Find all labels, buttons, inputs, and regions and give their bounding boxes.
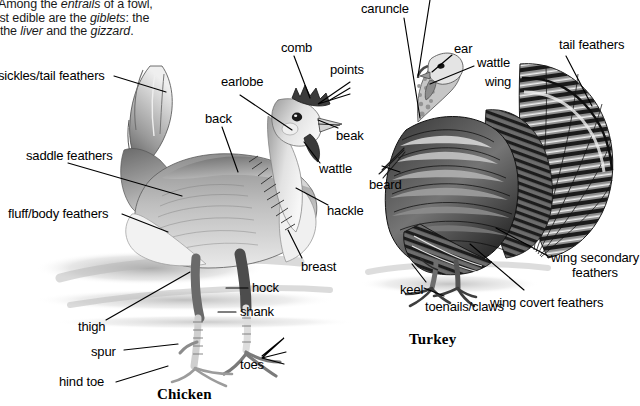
- leader-toes-2: [262, 358, 284, 364]
- caption-chicken: Chicken: [157, 386, 212, 403]
- label-back: back: [205, 112, 232, 126]
- label-caruncle: caruncle: [361, 2, 409, 16]
- leader-earlobe: [240, 95, 292, 130]
- leader-beak: [318, 120, 338, 128]
- label-sickles-tail-feathers: sickles/tail feathers: [0, 69, 105, 83]
- label-saddle-feathers: saddle feathers: [26, 149, 113, 163]
- leader-wing-covert-feathers: [470, 244, 524, 290]
- label-shank: shank: [240, 305, 274, 319]
- leader-tail-feathers: [566, 56, 592, 106]
- leader-sickles-tail-feathers: [114, 76, 166, 92]
- leader-keel: [412, 264, 426, 282]
- label-beard: beard: [369, 178, 402, 192]
- leader-fluff-body-feathers: [122, 214, 168, 232]
- intro-line-2: e most edible are the giblets: the: [0, 11, 149, 25]
- label-spur: spur: [91, 345, 116, 359]
- intro-paragraph: ges. Among the entrails of a fowl, e mos…: [0, 0, 262, 39]
- leader-thigh: [106, 272, 190, 320]
- label-comb: comb: [281, 41, 312, 55]
- label-beak: beak: [336, 129, 364, 143]
- label-hock: hock: [252, 281, 279, 295]
- leader-hind-toe: [116, 366, 168, 382]
- label-fluff-body-feathers: fluff/body feathers: [8, 207, 108, 221]
- intro-line-3: eart, the liver and the gizzard.: [0, 24, 134, 38]
- leader-toes: [262, 338, 286, 358]
- label-wattle: wattle: [319, 162, 352, 176]
- anatomy-diagram: ges. Among the entrails of a fowl, e mos…: [0, 0, 640, 406]
- label-wing-secondary-feathers: wing secondary feathers: [549, 251, 640, 280]
- leader-snood: [418, 0, 430, 76]
- label-wing-covert-feathers: wing covert feathers: [490, 296, 603, 310]
- leader-points: [318, 82, 350, 104]
- label-points: points: [330, 63, 364, 77]
- label-thigh: thigh: [78, 320, 105, 334]
- leader-beard: [382, 166, 400, 172]
- label-keel: keel: [400, 283, 423, 297]
- leader-toenails-claws: [424, 288, 444, 296]
- label-ear: ear: [454, 42, 472, 56]
- label-tail-feathers: tail feathers: [559, 38, 624, 52]
- label-wing: wing: [485, 75, 511, 89]
- leader-saddle-feathers: [68, 163, 182, 196]
- leader-comb: [294, 56, 310, 98]
- label-turkey-wattle: wattle: [477, 56, 510, 70]
- label-hackle: hackle: [327, 204, 364, 218]
- caption-turkey: Turkey: [409, 331, 456, 348]
- leader-back: [222, 127, 238, 172]
- leader-ear: [432, 55, 452, 72]
- intro-line-1: ges. Among the entrails of a fowl,: [0, 0, 153, 11]
- leader-hackle: [296, 188, 328, 205]
- label-breast: breast: [301, 260, 336, 274]
- label-earlobe: earlobe: [221, 75, 263, 89]
- leader-caruncle: [404, 18, 420, 118]
- label-hind-toe: hind toe: [59, 375, 104, 389]
- leader-wattle: [304, 142, 320, 163]
- leader-breast: [288, 230, 302, 258]
- label-toes: toes: [240, 358, 264, 372]
- leader-spur: [124, 344, 178, 350]
- leader-wing-secondary-feathers: [496, 228, 548, 256]
